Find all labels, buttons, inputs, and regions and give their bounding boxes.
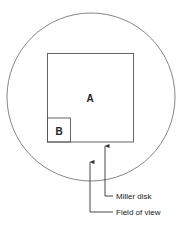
miller-disk-arrow bbox=[105, 146, 113, 196]
region-label-b: B bbox=[55, 126, 62, 137]
miller-disk-diagram: A B Miller disk Field of view bbox=[0, 0, 183, 229]
miller-disk-label: Miller disk bbox=[116, 192, 153, 201]
field-of-view-label: Field of view bbox=[116, 208, 161, 217]
field-of-view-arrow bbox=[90, 162, 113, 212]
region-label-a: A bbox=[86, 93, 93, 104]
